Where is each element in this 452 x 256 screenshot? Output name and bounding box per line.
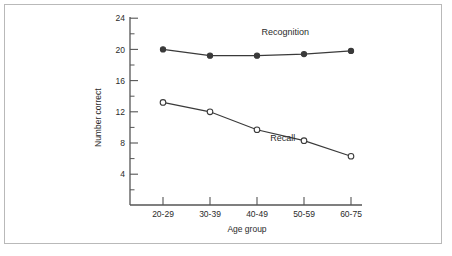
y-tick-label-16: 16 xyxy=(116,76,126,86)
y-tick-label-20: 20 xyxy=(116,45,126,55)
data-point-recall-3 xyxy=(301,138,307,144)
data-point-recall-1 xyxy=(207,109,213,115)
data-point-recall-0 xyxy=(160,100,166,106)
y-tick-label-8: 8 xyxy=(120,138,125,148)
y-tick-label-12: 12 xyxy=(116,107,126,117)
series-layer xyxy=(160,47,354,159)
y-tick-label-24: 24 xyxy=(116,13,126,23)
x-tick-label-1: 30-39 xyxy=(199,209,221,219)
x-axis-ticks xyxy=(163,197,351,205)
data-point-recognition-1 xyxy=(207,53,212,58)
x-axis-title: Age group xyxy=(227,224,266,234)
x-tick-label-3: 50-59 xyxy=(293,209,315,219)
x-tick-label-4: 60-75 xyxy=(340,209,362,219)
x-tick-label-2: 40-49 xyxy=(246,209,268,219)
x-tick-label-0: 20-29 xyxy=(152,209,174,219)
data-point-recall-2 xyxy=(254,127,260,133)
data-point-recall-4 xyxy=(348,153,354,159)
data-point-recognition-0 xyxy=(160,47,165,52)
y-axis-title: Number correct xyxy=(93,88,103,147)
series-label-recall: Recall xyxy=(270,133,295,143)
series-label-recognition: Recognition xyxy=(261,27,309,37)
chart-page: 24 20 16 12 8 4 Number correct 20-29 30-… xyxy=(0,0,452,256)
data-point-recognition-2 xyxy=(254,53,259,58)
data-point-recognition-4 xyxy=(348,48,353,53)
y-tick-label-4: 4 xyxy=(120,169,125,179)
line-chart: 24 20 16 12 8 4 Number correct 20-29 30-… xyxy=(0,0,452,256)
data-point-recognition-3 xyxy=(301,51,306,56)
